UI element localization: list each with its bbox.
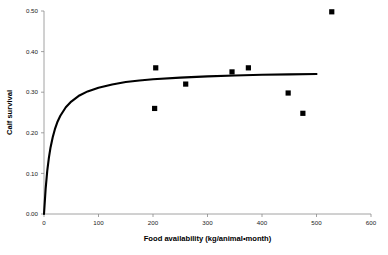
x-tick-label: 100 xyxy=(93,219,104,226)
data-point-marker xyxy=(183,81,188,86)
y-tick-label: 0.30 xyxy=(26,88,39,95)
x-axis-ticks xyxy=(44,214,371,217)
y-tick-label: 0.40 xyxy=(26,48,39,55)
y-axis-title: Calf survival xyxy=(5,90,14,135)
y-axis-tick-labels: 0.000.100.200.300.400.50 xyxy=(26,7,39,217)
x-axis-group: 0100200300400500600 xyxy=(42,214,376,226)
y-tick-label: 0.50 xyxy=(26,7,39,14)
data-point-marker xyxy=(286,90,291,95)
y-tick-label: 0.20 xyxy=(26,129,39,136)
x-tick-label: 600 xyxy=(366,219,377,226)
x-tick-label: 300 xyxy=(202,219,213,226)
y-axis-group: 0.000.100.200.300.400.50 xyxy=(26,7,44,217)
x-tick-label: 400 xyxy=(257,219,268,226)
data-point-marker xyxy=(329,9,334,14)
fitted-curve-line xyxy=(44,74,317,214)
x-axis-title: Food availability (kg/animal•month) xyxy=(144,234,272,243)
data-point-marker xyxy=(229,69,234,74)
scatter-plot: 0.000.100.200.300.400.50 010020030040050… xyxy=(0,0,388,255)
x-tick-label: 0 xyxy=(42,219,46,226)
x-axis-tick-labels: 0100200300400500600 xyxy=(42,219,376,226)
x-tick-label: 500 xyxy=(311,219,322,226)
data-point-marker xyxy=(152,106,157,111)
y-axis-ticks xyxy=(41,11,44,214)
data-point-markers xyxy=(152,9,334,116)
data-point-marker xyxy=(300,111,305,116)
y-tick-label: 0.10 xyxy=(26,170,39,177)
data-point-marker xyxy=(246,65,251,70)
chart-figure: 0.000.100.200.300.400.50 010020030040050… xyxy=(0,0,388,255)
y-tick-label: 0.00 xyxy=(26,210,39,217)
data-point-marker xyxy=(153,65,158,70)
x-tick-label: 200 xyxy=(148,219,159,226)
